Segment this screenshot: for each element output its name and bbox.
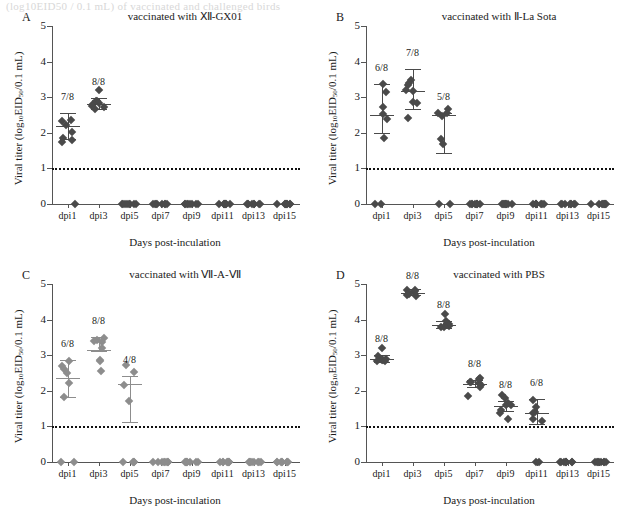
panel-letter-b: B xyxy=(336,10,344,25)
y-axis-tick xyxy=(47,391,52,392)
positive-count-label: 8/8 xyxy=(364,333,400,344)
x-axis-tick-label-dpi15: dpi15 xyxy=(263,210,307,221)
panel-letter-d: D xyxy=(336,268,345,283)
plot-area-c: 012345dpi1dpi3dpi5dpi7dpi9dpi11dpi13dpi1… xyxy=(52,284,300,462)
y-axis-tick-label: 4 xyxy=(346,56,360,67)
y-axis-tick-label: 1 xyxy=(32,162,46,173)
y-axis-tick-label: 3 xyxy=(32,349,46,360)
detection-threshold-line xyxy=(52,426,300,428)
y-axis-tick xyxy=(361,133,366,134)
data-point xyxy=(380,134,388,142)
panel-d: D vaccinated with PBS Viral titer (log10… xyxy=(314,266,628,520)
x-axis-tick xyxy=(68,204,69,208)
panel-a: A vaccinated with Ⅻ-GX01 Viral titer (lo… xyxy=(0,8,314,262)
y-axis-tick xyxy=(47,26,52,27)
x-axis-tick-label-dpi15: dpi15 xyxy=(577,468,621,479)
y-axis-tick xyxy=(47,204,52,205)
y-axis-line xyxy=(52,26,53,204)
x-axis-tick xyxy=(475,462,476,466)
y-axis-line xyxy=(52,284,53,462)
data-point xyxy=(125,396,133,404)
positive-count-label: 8/8 xyxy=(426,299,462,310)
x-axis-line xyxy=(366,462,614,463)
mean-line xyxy=(87,350,111,351)
x-axis-tick xyxy=(99,204,100,208)
y-axis-tick-label: 2 xyxy=(32,385,46,396)
detection-threshold-line xyxy=(52,168,300,170)
positive-count-label: 7/8 xyxy=(395,47,431,58)
y-axis-tick-label: 5 xyxy=(346,278,360,289)
y-axis-tick-label: 0 xyxy=(32,198,46,209)
x-axis-tick xyxy=(444,462,445,466)
x-axis-tick xyxy=(99,462,100,466)
x-axis-label-b: Days post-inculation xyxy=(364,236,614,248)
y-axis-tick-label: 2 xyxy=(346,127,360,138)
y-axis-tick xyxy=(47,320,52,321)
y-axis-line xyxy=(366,26,367,204)
y-axis-tick-label: 2 xyxy=(32,127,46,138)
error-bar-cap-lower xyxy=(436,153,452,154)
data-point xyxy=(70,200,78,208)
panel-c: C vaccinated with Ⅶ-A-Ⅶ Viral titer (log… xyxy=(0,266,314,520)
y-axis-tick-label: 5 xyxy=(346,20,360,31)
positive-count-label: 8/8 xyxy=(81,315,117,326)
data-point xyxy=(464,392,472,400)
data-point xyxy=(381,87,389,95)
data-point xyxy=(507,401,515,409)
positive-count-label: 6/8 xyxy=(519,377,555,388)
x-axis-tick-label-dpi15: dpi15 xyxy=(263,468,307,479)
y-axis-tick xyxy=(361,320,366,321)
y-axis-tick-label: 3 xyxy=(32,91,46,102)
x-axis-tick xyxy=(506,462,507,466)
y-axis-label-a: Viral titer (log10EID50/0.1 mL) xyxy=(12,35,25,203)
positive-count-label: 8/8 xyxy=(395,270,431,281)
positive-count-label: 6/8 xyxy=(364,62,400,73)
data-point xyxy=(377,200,385,208)
y-axis-tick-label: 5 xyxy=(32,20,46,31)
y-axis-tick xyxy=(361,26,366,27)
data-point xyxy=(57,458,65,466)
y-axis-tick-label: 4 xyxy=(346,314,360,325)
y-axis-tick xyxy=(47,462,52,463)
x-axis-tick-label-dpi15: dpi15 xyxy=(577,210,621,221)
x-axis-tick xyxy=(68,462,69,466)
error-bar-cap-lower xyxy=(91,351,107,352)
error-bar-cap-lower xyxy=(122,422,138,423)
data-point xyxy=(383,115,391,123)
y-axis-tick-label: 5 xyxy=(32,278,46,289)
panel-title-c: vaccinated with Ⅶ-A-Ⅶ xyxy=(60,268,310,281)
x-axis-tick xyxy=(382,462,383,466)
y-axis-tick-label: 0 xyxy=(346,456,360,467)
panel-title-b: vaccinated with Ⅱ-La Sota xyxy=(374,10,624,23)
positive-count-label: 5/8 xyxy=(426,91,462,102)
data-point xyxy=(439,139,447,147)
x-axis-label-d: Days post-inculation xyxy=(364,494,614,506)
x-axis-tick xyxy=(413,204,414,208)
y-axis-tick xyxy=(361,391,366,392)
panel-b: B vaccinated with Ⅱ-La Sota Viral titer … xyxy=(314,8,628,262)
y-axis-tick xyxy=(47,355,52,356)
y-axis-tick-label: 4 xyxy=(32,56,46,67)
x-axis-tick xyxy=(444,204,445,208)
error-bar-cap-upper xyxy=(405,69,421,70)
positive-count-label: 4/8 xyxy=(112,354,148,365)
error-bar-cap-upper xyxy=(60,113,76,114)
data-point xyxy=(130,367,138,375)
plot-area-a: 012345dpi1dpi3dpi5dpi7dpi9dpi11dpi13dpi1… xyxy=(52,26,300,204)
detection-threshold-line xyxy=(366,168,614,170)
y-axis-tick-label: 1 xyxy=(32,420,46,431)
data-point xyxy=(119,458,127,466)
panel-letter-a: A xyxy=(22,10,31,25)
data-point xyxy=(65,356,73,364)
figure-root: (log10EID50 / 0.1 mL) of vaccinated and … xyxy=(0,0,628,523)
data-point xyxy=(67,135,75,143)
y-axis-tick xyxy=(361,204,366,205)
error-bar-cap-upper xyxy=(122,376,138,377)
y-axis-tick xyxy=(361,284,366,285)
error-bar-cap-lower xyxy=(405,109,421,110)
plot-area-b: 012345dpi1dpi3dpi5dpi7dpi9dpi11dpi13dpi1… xyxy=(366,26,614,204)
y-axis-tick xyxy=(361,355,366,356)
y-axis-tick xyxy=(47,62,52,63)
data-point xyxy=(409,87,417,95)
positive-count-label: 8/8 xyxy=(81,76,117,87)
